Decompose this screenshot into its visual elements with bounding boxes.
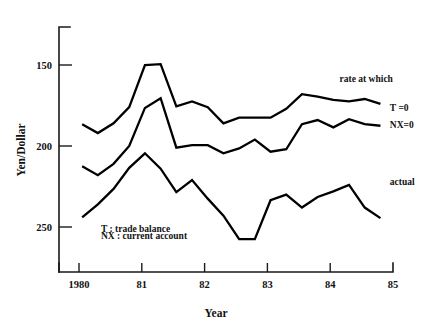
x-tick-label-81: 81 <box>137 279 148 290</box>
series-labels-group: T =0NX=0actual <box>390 103 415 187</box>
x-tick-label-83: 83 <box>262 279 273 290</box>
y-axis-ticks <box>59 65 72 227</box>
x-tick-label-85: 85 <box>388 279 399 290</box>
series-label-t-0: T =0 <box>390 103 409 113</box>
data-series-group <box>82 64 380 239</box>
series-line-t-0 <box>82 64 380 133</box>
yen-dollar-line-chart: 150200250 19808182838485 T =0NX=0actual … <box>0 0 432 331</box>
y-axis-line <box>59 27 70 272</box>
series-label-nx-0: NX=0 <box>390 120 414 130</box>
x-axis-title: Year <box>205 307 228 319</box>
y-tick-label-150: 150 <box>36 60 52 71</box>
x-tick-label-82: 82 <box>199 279 210 290</box>
x-axis-ticks <box>79 263 330 272</box>
y-tick-label-250: 250 <box>36 222 52 233</box>
x-axis: 19808182838485 <box>59 263 398 290</box>
chart-container: 150200250 19808182838485 T =0NX=0actual … <box>0 0 432 331</box>
annotation-rate-at-which: rate at which <box>340 74 394 84</box>
x-tick-label-84: 84 <box>325 279 336 290</box>
y-axis-title: Yen/Dollar <box>15 123 27 176</box>
x-axis-tick-labels: 19808182838485 <box>69 279 399 290</box>
y-axis: 150200250 <box>36 27 72 272</box>
annotation-legend-current-account: NX : current account <box>101 231 188 241</box>
y-tick-label-200: 200 <box>36 141 52 152</box>
series-label-actual: actual <box>390 177 415 187</box>
x-axis-line <box>59 263 393 272</box>
annotations-group: rate at whichT : trade balanceNX : curre… <box>101 74 394 241</box>
x-tick-label-1980: 1980 <box>69 279 90 290</box>
y-axis-tick-labels: 150200250 <box>36 60 52 233</box>
